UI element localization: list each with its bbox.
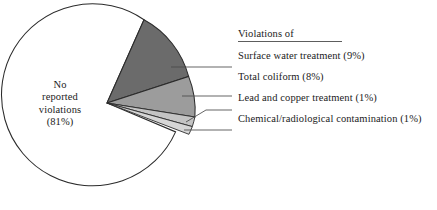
legend-item-total-coliform: Total coliform (8%) bbox=[238, 71, 436, 82]
legend-header: Violations of bbox=[238, 28, 436, 41]
legend-item-chemical-radiological-contamination: Chemical/radiological contamination (1%) bbox=[238, 113, 436, 124]
legend-header-underline bbox=[238, 41, 342, 42]
pie-center-label-line-2: reported bbox=[18, 91, 102, 103]
pie-chart-figure: No reported violations (81%) Violations … bbox=[0, 0, 437, 210]
pie-center-label-line-4: (81%) bbox=[18, 116, 102, 128]
pie-center-label: No reported violations (81%) bbox=[18, 79, 102, 129]
legend-item-lead-and-copper-treatment: Lead and copper treatment (1%) bbox=[238, 92, 436, 103]
legend: Violations of Surface water treatment (9… bbox=[238, 28, 436, 124]
pie-center-label-line-3: violations bbox=[18, 104, 102, 116]
legend-item-surface-water-treatment: Surface water treatment (9%) bbox=[238, 50, 436, 61]
pie-center-label-line-1: No bbox=[18, 79, 102, 91]
